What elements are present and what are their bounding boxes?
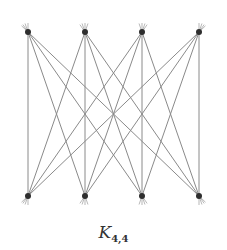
caption-subscript: 4,4 bbox=[111, 233, 128, 244]
vertex-v2 bbox=[82, 193, 88, 199]
vertex-v3 bbox=[139, 193, 145, 199]
vertex-v1 bbox=[25, 193, 31, 199]
graph-caption: K4,4 bbox=[0, 222, 227, 249]
vertex-u1 bbox=[25, 29, 31, 35]
edges bbox=[28, 32, 199, 196]
k44-graph bbox=[0, 0, 227, 250]
caption-main: K bbox=[98, 222, 111, 242]
vertex-v4 bbox=[196, 193, 202, 199]
vertex-u2 bbox=[82, 29, 88, 35]
vertex-u4 bbox=[196, 29, 202, 35]
vertex-u3 bbox=[139, 29, 145, 35]
